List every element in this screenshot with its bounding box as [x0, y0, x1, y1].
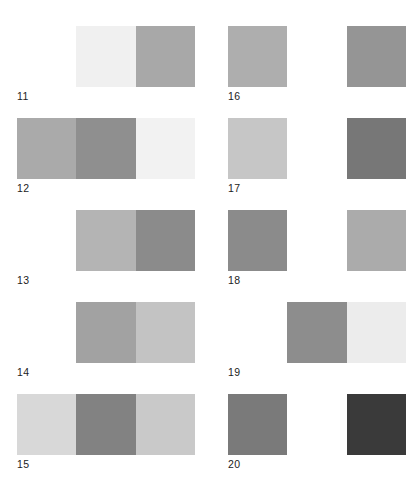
plate: 20 — [228, 394, 406, 481]
swatch-left — [228, 26, 287, 87]
plate: 17 — [228, 118, 406, 210]
swatch-strip — [228, 118, 406, 179]
swatch-middle — [76, 210, 135, 271]
swatch-right — [136, 118, 195, 179]
swatch-middle — [287, 302, 346, 363]
plate: 19 — [228, 302, 406, 394]
plate-label: 17 — [228, 182, 240, 195]
swatch-middle — [287, 394, 346, 455]
swatch-middle — [287, 210, 346, 271]
swatch-left — [228, 302, 287, 363]
swatch-right — [136, 394, 195, 455]
swatch-middle — [76, 302, 135, 363]
swatch-middle — [76, 394, 135, 455]
plate-label: 13 — [17, 274, 29, 287]
swatch-left — [17, 394, 76, 455]
plate-label: 16 — [228, 90, 240, 103]
swatch-strip — [17, 26, 195, 87]
plate: 15 — [17, 394, 195, 481]
plate: 13 — [17, 210, 195, 302]
swatch-right — [136, 210, 195, 271]
plate: 12 — [17, 118, 195, 210]
swatch-left — [228, 210, 287, 271]
swatch-strip — [228, 26, 406, 87]
plate: 18 — [228, 210, 406, 302]
swatch-strip — [17, 210, 195, 271]
plate-label: 14 — [17, 366, 29, 379]
swatch-strip — [228, 210, 406, 271]
plate-label: 19 — [228, 366, 240, 379]
swatch-middle — [76, 118, 135, 179]
swatch-right — [347, 394, 406, 455]
swatch-strip — [17, 302, 195, 363]
swatch-right — [347, 210, 406, 271]
swatch-left — [228, 394, 287, 455]
swatch-left — [17, 118, 76, 179]
plate-label: 11 — [17, 90, 29, 103]
swatch-left — [17, 210, 76, 271]
swatch-middle — [287, 26, 346, 87]
swatch-left — [17, 26, 76, 87]
plate-label: 20 — [228, 458, 240, 471]
plate-label: 18 — [228, 274, 240, 287]
swatch-strip — [17, 394, 195, 455]
plate: 14 — [17, 302, 195, 394]
plate-label: 15 — [17, 458, 29, 471]
swatch-middle — [287, 118, 346, 179]
swatch-strip — [17, 118, 195, 179]
swatch-left — [17, 302, 76, 363]
swatch-right — [347, 302, 406, 363]
plate-label: 12 — [17, 182, 29, 195]
swatch-right — [136, 26, 195, 87]
swatch-strip — [228, 394, 406, 455]
swatch-right — [136, 302, 195, 363]
swatch-middle — [76, 26, 135, 87]
swatch-right — [347, 118, 406, 179]
plate-grid: 11161217131814191520 — [0, 0, 416, 481]
figure-root: 11161217131814191520 — [0, 0, 416, 481]
swatch-left — [228, 118, 287, 179]
swatch-strip — [228, 302, 406, 363]
plate: 11 — [17, 26, 195, 118]
plate: 16 — [228, 26, 406, 118]
swatch-right — [347, 26, 406, 87]
